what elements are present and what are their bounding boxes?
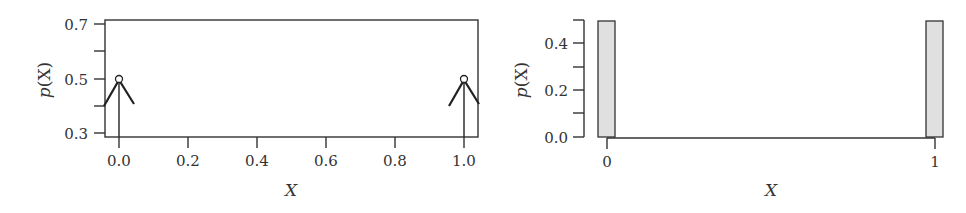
right-x-axis-label: X: [763, 180, 778, 200]
right-xtick-label: 0: [602, 153, 612, 171]
right-xtick-label: 1: [930, 153, 940, 171]
right-ytick-label: 0.2: [544, 82, 568, 100]
left-xtick-label: 0.0: [107, 152, 131, 170]
left-ytick-label: 0.7: [64, 16, 88, 34]
left-ytick-label: 0.5: [64, 71, 88, 89]
figure-canvas: 0.7 0.5 0.3 0.0 0.2 0.4 0.6 0.8 1.0 X p(…: [0, 0, 966, 213]
left-xtick-label: 0.8: [383, 152, 407, 170]
left-chart: 0.7 0.5 0.3 0.0 0.2 0.4 0.6 0.8 1.0 X p(…: [34, 16, 479, 200]
right-x-axis: [607, 138, 935, 149]
right-ytick-label: 0.0: [544, 129, 568, 147]
left-impulse-x1: [449, 76, 479, 138]
left-xtick-label: 1.0: [452, 152, 476, 170]
right-y-axis: [573, 20, 584, 137]
bar-x0: [598, 21, 615, 137]
left-y-axis-label: p(X): [34, 62, 54, 98]
left-impulse-x0: [104, 76, 134, 138]
left-plot-frame: [105, 20, 478, 137]
bar-x1: [926, 21, 943, 137]
svg-text:p(X): p(X): [511, 62, 531, 98]
left-xtick-label: 0.4: [245, 152, 269, 170]
left-x-axis: [119, 137, 464, 148]
left-xtick-label: 0.6: [314, 152, 338, 170]
right-chart: 0.4 0.2 0.0 0 1 X p(X): [511, 20, 943, 200]
left-x-axis-label: X: [283, 180, 298, 200]
right-ytick-label: 0.4: [544, 35, 568, 53]
left-ytick-label: 0.3: [64, 125, 88, 143]
left-xtick-label: 0.2: [176, 152, 200, 170]
right-y-axis-label: p(X): [511, 62, 531, 98]
left-y-axis: [94, 24, 105, 133]
svg-text:p(X): p(X): [34, 62, 54, 98]
